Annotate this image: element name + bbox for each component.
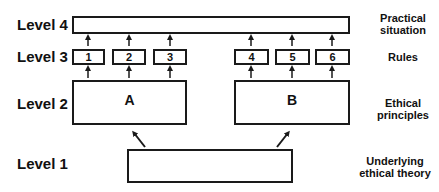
level-2-description-line-2: principles bbox=[370, 109, 436, 121]
level-4-description-line-2: situation bbox=[370, 24, 436, 36]
level-3-description: Rules bbox=[370, 51, 436, 63]
arrow-diagonal-left-icon bbox=[134, 133, 145, 147]
level-2-description-line-1: Ethical bbox=[370, 97, 436, 109]
level-3-description-line-1: Rules bbox=[370, 51, 436, 63]
level-1-description-line-1: Underlying bbox=[350, 155, 439, 167]
level-1-description: Underlying ethical theory bbox=[350, 155, 439, 179]
level-1-description-line-2: ethical theory bbox=[350, 167, 439, 179]
arrow-diagonal-right-icon bbox=[277, 133, 288, 147]
level-2-description: Ethical principles bbox=[370, 97, 436, 121]
level-4-description: Practical situation bbox=[370, 12, 436, 36]
level-4-description-line-1: Practical bbox=[370, 12, 436, 24]
